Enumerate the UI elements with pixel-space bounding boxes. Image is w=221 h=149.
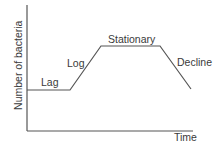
y-axis-label: Number of bacteria <box>13 15 24 115</box>
phase-label-lag: Lag <box>41 77 59 88</box>
phase-label-log: Log <box>67 58 85 69</box>
phase-label-stationary: Stationary <box>108 34 155 45</box>
x-axis-label: Time <box>174 132 197 143</box>
phase-label-decline: Decline <box>177 57 212 68</box>
diagram-canvas <box>0 0 221 149</box>
